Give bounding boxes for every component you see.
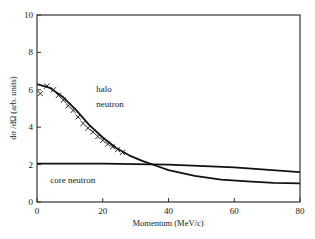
data-point-x-marker — [38, 91, 43, 96]
data-point-x-marker — [95, 134, 100, 139]
chart: haloneutroncore neutron 0204060800246810… — [0, 0, 315, 239]
y-tick-label: 8 — [29, 47, 34, 57]
data-point-x-marker — [85, 126, 90, 131]
annotation: neutron — [96, 99, 124, 109]
plot-area: haloneutroncore neutron — [37, 83, 300, 185]
y-tick-label: 2 — [29, 160, 34, 170]
y-axis-label: dσ /dΩ (arb. units) — [8, 76, 18, 139]
y-tick-label: 4 — [29, 122, 34, 132]
x-tick-label: 0 — [35, 206, 40, 216]
data-point-x-marker — [66, 103, 71, 108]
x-axis-label: Momentum (MeV/c) — [132, 218, 203, 228]
annotation: core neutron — [50, 175, 96, 185]
x-tick-label: 60 — [230, 206, 240, 216]
x-tick-label: 40 — [164, 206, 174, 216]
data-point-x-marker — [71, 108, 76, 113]
y-tick-label: 10 — [24, 10, 34, 20]
x-tick-label: 20 — [98, 206, 108, 216]
data-point-x-marker — [80, 121, 85, 126]
annotation: halo — [96, 84, 112, 94]
data-point-x-marker — [90, 129, 95, 134]
data-point-x-marker — [75, 114, 80, 119]
y-tick-label: 0 — [29, 197, 34, 207]
y-tick-label: 6 — [29, 85, 34, 95]
plot-frame — [37, 15, 300, 202]
x-tick-label: 80 — [296, 206, 306, 216]
